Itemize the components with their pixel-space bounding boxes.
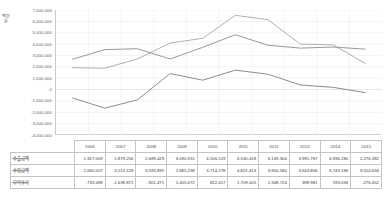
table-cell-value: -1,638,872 bbox=[105, 177, 136, 189]
table-cell-value: 3,991,787 bbox=[289, 153, 320, 165]
table-row-label: 수출금액 bbox=[11, 153, 75, 165]
y-axis-tick: 4,000,000 bbox=[12, 42, 52, 47]
data-table: 2006200720082009201020112012201320142015… bbox=[10, 140, 382, 189]
table-cell-value: 6,149,304 bbox=[259, 153, 290, 165]
table-cell-value: 3,593,895 bbox=[136, 165, 167, 177]
table-cell-value: -733,498 bbox=[75, 177, 106, 189]
table-cell-value: 822,417 bbox=[197, 177, 228, 189]
plot-svg bbox=[56, 10, 382, 135]
table-year-header: 2014 bbox=[320, 141, 351, 153]
table-year-header: 2007 bbox=[105, 141, 136, 153]
table-cell-value: 3,714,278 bbox=[197, 165, 228, 177]
y-axis-tick: -4,000,000 bbox=[12, 133, 52, 138]
table-body: 수출금액1,927,0091,879,2562,689,4294,090,910… bbox=[11, 153, 382, 189]
table-cell-value: 3,743,186 bbox=[320, 165, 351, 177]
table-year-header: 2006 bbox=[75, 141, 106, 153]
table-cell-value: 2,685,238 bbox=[167, 165, 198, 177]
table-cell-value: -276,452 bbox=[351, 177, 382, 189]
table-cell-value: 3,900,580 bbox=[259, 165, 290, 177]
y-axis-tick: -3,000,000 bbox=[12, 121, 52, 126]
y-axis-tick: 5,000,000 bbox=[12, 30, 52, 35]
table-cell-value: 2,689,429 bbox=[136, 153, 167, 165]
table-corner-cell bbox=[11, 141, 75, 153]
table-cell-value: 4,821,413 bbox=[228, 165, 259, 177]
y-axis-tick: -1,000,000 bbox=[12, 98, 52, 103]
table-cell-value: 4,506,519 bbox=[197, 153, 228, 165]
y-axis-tick: -2,000,000 bbox=[12, 110, 52, 115]
table-cell-value: 1,405,672 bbox=[167, 177, 198, 189]
table-year-header: 2009 bbox=[167, 141, 198, 153]
table-row-label: 무역수지 bbox=[11, 177, 75, 189]
table-year-header: 2015 bbox=[351, 141, 382, 153]
y-axis-tick: 7,000,000 bbox=[12, 8, 52, 13]
legend-line-icon bbox=[12, 182, 28, 183]
legend-line-icon bbox=[12, 170, 28, 171]
table-cell-value: 1,709,005 bbox=[228, 177, 259, 189]
y-axis-title: 백만원 bbox=[1, 14, 11, 24]
table-cell-value: -901,471 bbox=[136, 177, 167, 189]
table-cell-value: 398,981 bbox=[289, 177, 320, 189]
table-year-header: 2011 bbox=[228, 141, 259, 153]
table-cell-value: 1,348,724 bbox=[259, 177, 290, 189]
y-axis-tick: 1,000,000 bbox=[12, 76, 52, 81]
trade-line-chart: 백만원 7,000,0006,000,0005,000,0004,000,000… bbox=[0, 0, 385, 140]
table-cell-value: 1,927,009 bbox=[75, 153, 106, 165]
table-cell-value: 2,276,382 bbox=[351, 153, 382, 165]
table-cell-value: 193,094 bbox=[320, 177, 351, 189]
legend-line-icon bbox=[12, 158, 28, 159]
y-axis-tick: 0 bbox=[12, 87, 52, 92]
table-year-header: 2008 bbox=[136, 141, 167, 153]
table-year-header: 2013 bbox=[289, 141, 320, 153]
chart-page: 백만원 7,000,0006,000,0005,000,0004,000,000… bbox=[0, 0, 385, 198]
table-cell-value: 2,660,507 bbox=[75, 165, 106, 177]
y-axis-tick: 2,000,000 bbox=[12, 64, 52, 69]
table-cell-value: 4,090,910 bbox=[167, 153, 198, 165]
y-axis-tick: 6,000,000 bbox=[12, 19, 52, 24]
table-row: 무역수지-733,498-1,638,872-901,4711,405,6728… bbox=[11, 177, 382, 189]
table-cell-value: 6,530,418 bbox=[228, 153, 259, 165]
table-row: 수출금액1,927,0091,879,2562,689,4294,090,910… bbox=[11, 153, 382, 165]
table-header-row: 2006200720082009201020112012201320142015 bbox=[11, 141, 382, 153]
table-row-label: 수입금액 bbox=[11, 165, 75, 177]
table-cell-value: 1,879,256 bbox=[105, 153, 136, 165]
y-axis-tick: 3,000,000 bbox=[12, 53, 52, 58]
y-axis-tick-labels: 7,000,0006,000,0005,000,0004,000,0003,00… bbox=[12, 8, 52, 136]
table-cell-value: 3,936,280 bbox=[320, 153, 351, 165]
table-year-header: 2010 bbox=[197, 141, 228, 153]
table-row: 수입금액2,660,5073,513,1283,593,8952,685,238… bbox=[11, 165, 382, 177]
table-cell-value: 9,550,634 bbox=[351, 165, 382, 177]
table-year-header: 2012 bbox=[259, 141, 290, 153]
table-cell-value: 3,513,128 bbox=[105, 165, 136, 177]
plot-area bbox=[55, 10, 381, 135]
table-cell-value: 3,643,806 bbox=[289, 165, 320, 177]
